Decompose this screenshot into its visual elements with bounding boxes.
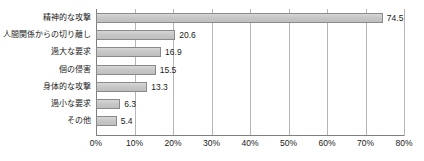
category-label: 過大な要求 <box>51 45 91 59</box>
bar-value-label: 6.3 <box>124 96 136 112</box>
bar-value-label: 5.4 <box>121 113 133 129</box>
bar <box>96 116 117 126</box>
x-tick-label: 10% <box>126 138 143 148</box>
bar-rows: 精神的な攻撃74.5人間関係からの切り離し20.6過大な要求16.9個の侵害15… <box>96 9 404 136</box>
x-tick-label: 60% <box>318 138 335 148</box>
bar-row: 身体的な攻撃13.3 <box>96 80 404 96</box>
bar <box>96 82 147 92</box>
bar-value-label: 74.5 <box>387 10 404 26</box>
category-label: その他 <box>67 114 91 128</box>
x-tick-label: 40% <box>241 138 258 148</box>
bar-row: 人間関係からの切り離し20.6 <box>96 28 404 44</box>
x-axis-tick-labels: 0%10%20%30%40%50%60%70%80% <box>96 138 404 152</box>
bar-value-label: 15.5 <box>160 62 177 78</box>
category-label: 人間関係からの切り離し <box>3 28 91 42</box>
bar <box>96 65 156 75</box>
x-tick-label: 0% <box>90 138 102 148</box>
category-label: 過小な要求 <box>51 97 91 111</box>
category-label: 個の侵害 <box>59 63 91 77</box>
bar-row: 精神的な攻撃74.5 <box>96 11 404 27</box>
bar-value-label: 16.9 <box>165 44 182 60</box>
bar-value-label: 20.6 <box>179 27 196 43</box>
bar-row: 過小な要求6.3 <box>96 97 404 113</box>
x-tick-label: 50% <box>280 138 297 148</box>
bar-row: 個の侵害15.5 <box>96 63 404 79</box>
x-tick-label: 70% <box>357 138 374 148</box>
gridline-80 <box>404 9 405 136</box>
category-label: 精神的な攻撃 <box>43 11 91 25</box>
bar <box>96 30 175 40</box>
bar-chart: 精神的な攻撃74.5人間関係からの切り離し20.6過大な要求16.9個の侵害15… <box>0 0 424 161</box>
bar <box>96 99 120 109</box>
bar-row: その他5.4 <box>96 114 404 130</box>
plot-area: 精神的な攻撃74.5人間関係からの切り離し20.6過大な要求16.9個の侵害15… <box>96 9 404 136</box>
category-label: 身体的な攻撃 <box>43 80 91 94</box>
bar <box>96 47 161 57</box>
bar <box>96 13 383 23</box>
bar-value-label: 13.3 <box>151 79 168 95</box>
x-tick-label: 20% <box>164 138 181 148</box>
x-tick-label: 30% <box>203 138 220 148</box>
x-tick-label: 80% <box>395 138 412 148</box>
bar-row: 過大な要求16.9 <box>96 45 404 61</box>
